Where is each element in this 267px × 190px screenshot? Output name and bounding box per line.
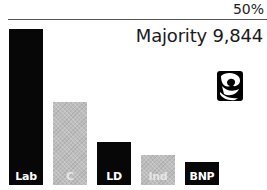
election-result-chart: 50% Majority 9,844 Lab C LD Ind BNP	[0, 0, 267, 190]
bar-ld: LD	[97, 142, 131, 185]
bar-lab: Lab	[9, 29, 43, 185]
bar-label-ld: LD	[97, 170, 131, 183]
bar-ind: Ind	[141, 155, 175, 185]
labour-rose-icon	[216, 70, 244, 102]
bar-label-bnp: BNP	[185, 170, 219, 183]
bar-label-ind: Ind	[141, 170, 175, 183]
bar-label-c: C	[53, 170, 87, 183]
bar-label-lab: Lab	[9, 170, 43, 183]
fifty-percent-label: 50%	[233, 1, 264, 17]
fifty-percent-line	[8, 19, 267, 20]
bar-c: C	[53, 102, 87, 185]
majority-text: Majority 9,844	[136, 25, 263, 46]
bar-bnp: BNP	[185, 162, 219, 185]
